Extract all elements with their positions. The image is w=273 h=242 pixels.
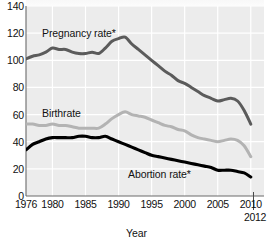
y-axis-tick-100: 100 xyxy=(0,55,24,65)
y-axis-tick-140: 140 xyxy=(0,1,24,11)
series-label-birthrate: Birthrate xyxy=(42,107,81,119)
x-axis-tick-1995: 1995 xyxy=(141,198,163,210)
series-label-pregnancy-rate: Pregnancy rate* xyxy=(42,27,116,39)
x-axis-tick-labels: 19761980198519901995200020052010 xyxy=(26,198,266,212)
y-axis-tick-120: 120 xyxy=(0,28,24,38)
y-axis-tick-60: 60 xyxy=(0,110,24,120)
x-axis-tick-2000: 2000 xyxy=(174,198,196,210)
x-axis-title: Year xyxy=(0,227,273,239)
x-axis-tick-1980: 1980 xyxy=(41,198,63,210)
y-axis-tick-80: 80 xyxy=(0,82,24,92)
series-label-abortion-rate: Abortion rate* xyxy=(128,168,191,180)
x-axis-tick-2005: 2005 xyxy=(207,198,229,210)
x-axis-tick-2010: 2010 xyxy=(240,198,262,210)
x-axis-tick-1990: 1990 xyxy=(107,198,129,210)
y-axis-tick-20: 20 xyxy=(0,164,24,174)
x-axis-tick-1976: 1976 xyxy=(15,198,37,210)
x-axis-tick-1985: 1985 xyxy=(74,198,96,210)
top-crop-strip xyxy=(26,0,264,6)
y-axis-tick-40: 40 xyxy=(0,137,24,147)
chart-container: 020406080100120140 197619801985199019952… xyxy=(0,0,273,242)
x-axis-end-tick-label: 2012 xyxy=(244,211,266,223)
